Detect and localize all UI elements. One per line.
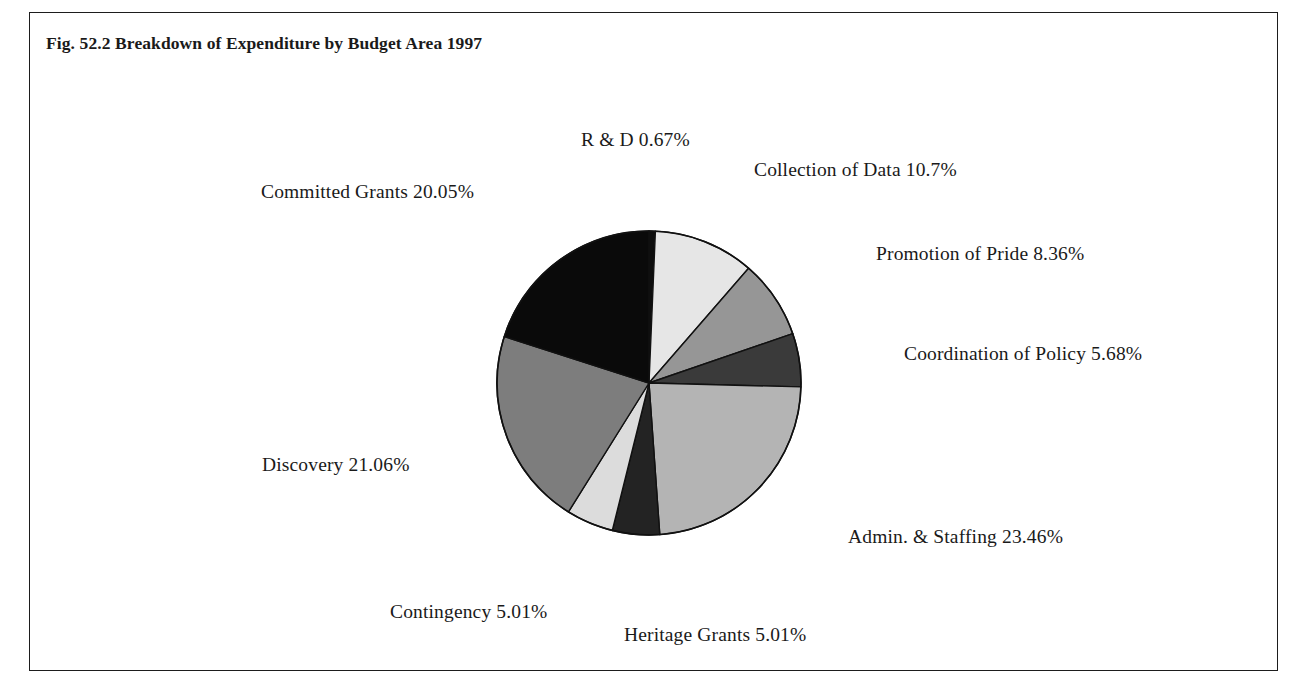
slice-label-collection-of-data: Collection of Data 10.7% bbox=[754, 159, 957, 181]
slice-label-contingency: Contingency 5.01% bbox=[390, 601, 547, 623]
slice-label-heritage-grants: Heritage Grants 5.01% bbox=[624, 624, 806, 646]
figure-frame: Fig. 52.2 Breakdown of Expenditure by Bu… bbox=[29, 12, 1278, 671]
pie-slice-admin-staffing[interactable] bbox=[649, 383, 801, 535]
slice-label-coordination-of-policy: Coordination of Policy 5.68% bbox=[904, 343, 1142, 365]
pie-chart: R & D 0.67% Collection of Data 10.7% Pro… bbox=[30, 13, 1277, 670]
slice-label-promotion-of-pride: Promotion of Pride 8.36% bbox=[876, 243, 1084, 265]
slice-label-r-and-d: R & D 0.67% bbox=[581, 129, 690, 151]
slice-label-committed-grants: Committed Grants 20.05% bbox=[261, 181, 474, 203]
pie-slice-group bbox=[497, 231, 801, 535]
slice-label-discovery: Discovery 21.06% bbox=[262, 454, 410, 476]
slice-label-admin-and-staffing: Admin. & Staffing 23.46% bbox=[848, 526, 1063, 548]
